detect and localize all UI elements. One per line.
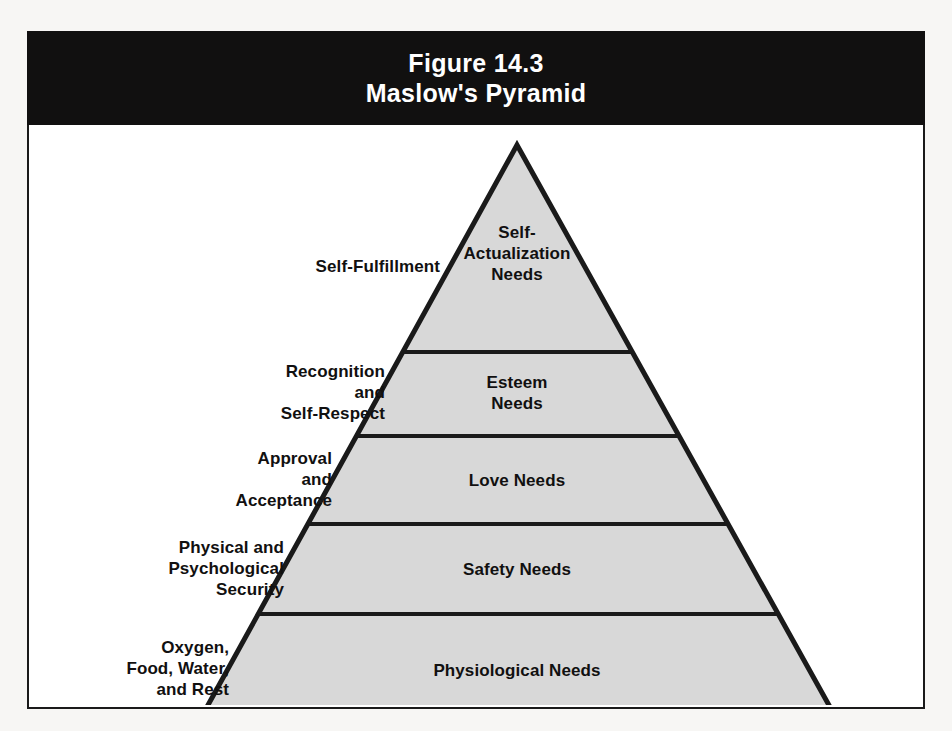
tier-label-self-actualization: Self- Actualization Needs bbox=[463, 222, 570, 285]
figure-title-band: Figure 14.3 Maslow's Pyramid bbox=[27, 31, 925, 125]
side-label-security: Physical and Psychological Security bbox=[168, 537, 284, 600]
tier-label-esteem: Esteem Needs bbox=[486, 372, 547, 414]
tier-label-safety: Safety Needs bbox=[463, 559, 571, 580]
side-label-oxygen: Oxygen, Food, Water, and Rest bbox=[126, 637, 229, 700]
side-label-self-fulfillment: Self-Fulfillment bbox=[316, 256, 440, 277]
tier-label-love: Love Needs bbox=[469, 470, 565, 491]
figure-title: Maslow's Pyramid bbox=[366, 78, 587, 108]
figure-body: Self- Actualization Needs Esteem Needs L… bbox=[27, 125, 925, 709]
figure-number: Figure 14.3 bbox=[408, 48, 543, 78]
maslow-pyramid-graphic bbox=[29, 125, 923, 705]
tier-label-physiological: Physiological Needs bbox=[433, 660, 600, 681]
side-label-recognition: Recognition and Self-Respect bbox=[281, 361, 385, 424]
scanned-page-background: Figure 14.3 Maslow's Pyramid Self- Actua… bbox=[0, 0, 952, 731]
figure-container: Figure 14.3 Maslow's Pyramid Self- Actua… bbox=[27, 31, 925, 709]
side-label-approval: Approval and Acceptance bbox=[236, 448, 332, 511]
